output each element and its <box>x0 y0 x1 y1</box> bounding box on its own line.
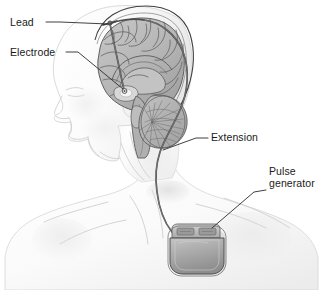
label-pulse-generator[interactable]: Pulse generator <box>212 165 315 228</box>
label-extension-text: Extension <box>211 131 258 143</box>
label-lead[interactable]: Lead <box>10 16 108 28</box>
label-electrode-text: Electrode <box>10 46 55 58</box>
leader-lead <box>46 22 108 24</box>
label-electrode[interactable]: Electrode <box>10 46 123 89</box>
dbs-illustration: Lead Electrode Extension Pulse generator <box>0 0 329 290</box>
label-pulse-generator-line2: generator <box>269 177 315 189</box>
leader-electrode <box>66 52 123 89</box>
label-extension[interactable]: Extension <box>163 131 258 150</box>
leader-extension <box>163 138 208 150</box>
label-pulse-generator-line1: Pulse <box>269 165 296 177</box>
labels-layer: Lead Electrode Extension Pulse generator <box>0 0 329 290</box>
leader-pulse-generator <box>212 190 266 228</box>
label-lead-text: Lead <box>10 16 34 28</box>
